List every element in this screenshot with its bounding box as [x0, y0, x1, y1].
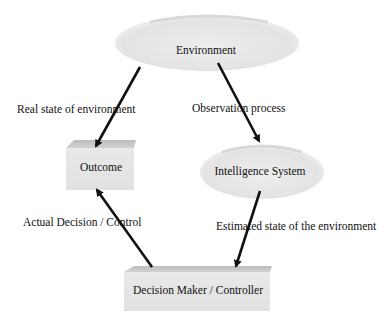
node-label-decision-maker: Decision Maker / Controller: [133, 285, 263, 297]
diagram-canvas: Environment Outcome Intelligence System …: [0, 0, 391, 324]
edge-label-estimated-state: Estimated state of the environment: [216, 221, 376, 233]
node-label-outcome: Outcome: [80, 162, 122, 174]
node-environment: [115, 15, 299, 71]
node-label-intelligence-system: Intelligence System: [214, 166, 305, 178]
edge-label-observation: Observation process: [192, 103, 286, 115]
arrow-decision-to-outcome: [97, 190, 152, 267]
edge-label-actual-decision: Actual Decision / Control: [23, 217, 142, 229]
node-label-environment: Environment: [176, 45, 236, 57]
edge-label-real-state: Real state of environment: [17, 104, 135, 116]
